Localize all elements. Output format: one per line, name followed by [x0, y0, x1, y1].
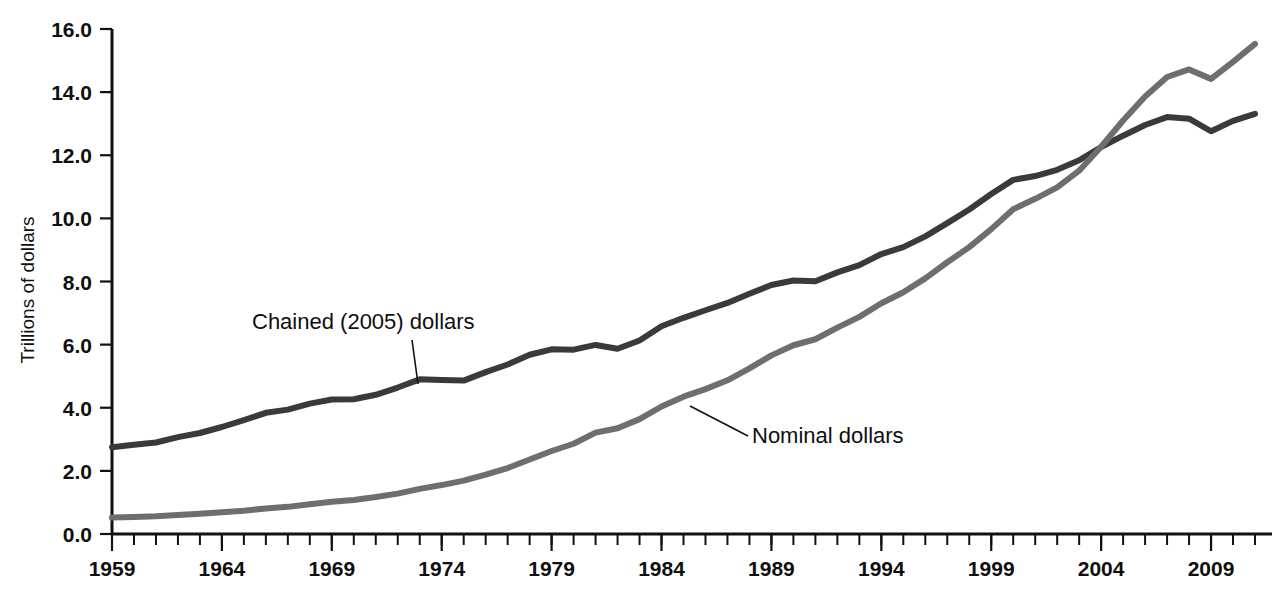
annotation-leader-nominal	[690, 406, 748, 436]
x-tick-label: 1979	[528, 557, 575, 580]
annotation-label-nominal: Nominal dollars	[752, 423, 904, 448]
x-axis-tick-labels: 1959196419691974197919841989199419992004…	[89, 557, 1235, 580]
x-tick-label: 1999	[968, 557, 1015, 580]
y-tick-label: 2.0	[63, 460, 92, 483]
x-tick-label: 1969	[308, 557, 355, 580]
x-tick-label: 1984	[638, 557, 685, 580]
y-axis-ticks	[100, 29, 112, 534]
series-line-nominal-dollars	[112, 44, 1255, 518]
x-tick-label: 1959	[89, 557, 136, 580]
y-tick-label: 10.0	[51, 207, 92, 230]
x-tick-label: 1994	[858, 557, 905, 580]
y-tick-label: 12.0	[51, 144, 92, 167]
line-chart: 0.02.04.06.08.010.012.014.016.0 19591964…	[0, 0, 1283, 604]
plot-right-shadow	[1255, 30, 1275, 535]
x-axis-minor-ticks	[112, 534, 1255, 545]
series-layer	[112, 44, 1255, 518]
plot-top-shadow	[112, 30, 1272, 42]
y-tick-label: 16.0	[51, 18, 92, 41]
x-tick-label: 2009	[1188, 557, 1235, 580]
y-axis-tick-labels: 0.02.04.06.08.010.012.014.016.0	[51, 18, 92, 546]
x-tick-label: 1964	[199, 557, 246, 580]
x-tick-label: 1974	[418, 557, 465, 580]
x-axis-major-ticks	[112, 534, 1211, 551]
chart-figure: 0.02.04.06.08.010.012.014.016.0 19591964…	[0, 0, 1283, 604]
y-tick-label: 4.0	[63, 397, 92, 420]
x-tick-label: 1989	[748, 557, 795, 580]
annotation-label-chained: Chained (2005) dollars	[252, 309, 475, 334]
annotation-leader-chained	[412, 340, 418, 384]
y-tick-label: 14.0	[51, 81, 92, 104]
y-axis-title: Trillions of dollars	[17, 216, 38, 363]
x-tick-label: 2004	[1078, 557, 1125, 580]
y-tick-label: 8.0	[63, 271, 92, 294]
y-tick-label: 6.0	[63, 334, 92, 357]
y-tick-label: 0.0	[63, 523, 92, 546]
